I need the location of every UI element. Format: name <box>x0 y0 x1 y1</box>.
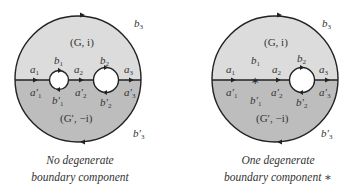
hole-2 <box>290 68 315 93</box>
diagram-one-degenerate: ∗ (G, i) (G′, −i) a1 b1 a2 b2 a3 b3 a′1 … <box>205 10 345 184</box>
upper-region-label: (G, i) <box>70 36 94 49</box>
upper-region-label: (G, i) <box>264 36 288 49</box>
label-b3-prime: b′3 <box>133 127 145 141</box>
lower-region-label: (G′, −i) <box>256 112 289 125</box>
figure: (G, i) (G′, −i) a1 b1 a2 b2 a3 b3 a′1 b′… <box>0 0 345 192</box>
caption-line2: boundary component ∗ <box>224 171 332 184</box>
diagram-no-degenerate: (G, i) (G′, −i) a1 b1 a2 b2 a3 b3 a′1 b′… <box>10 10 150 184</box>
caption-line1: No degenerate <box>45 154 113 167</box>
hole-2 <box>94 68 119 93</box>
caption-line2: boundary component <box>31 171 129 184</box>
degenerate-marker-icon: ∗ <box>251 75 259 86</box>
label-b3-prime: b′3 <box>321 127 333 141</box>
hole-1 <box>50 71 69 90</box>
lower-region-label: (G′, −i) <box>60 112 93 125</box>
caption-line1: One degenerate <box>241 154 314 167</box>
label-b3: b3 <box>322 17 332 31</box>
label-b3: b3 <box>134 17 144 31</box>
